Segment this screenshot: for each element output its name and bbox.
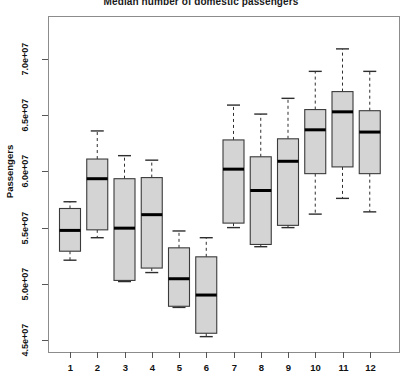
y-axis: [42, 60, 48, 341]
box-plot-item: [250, 114, 271, 247]
box-plot-item: [278, 98, 299, 227]
box-plot-item: [141, 160, 162, 272]
box-plot-item: [359, 71, 380, 212]
plot-area: [0, 0, 402, 391]
box-plot-item: [223, 105, 244, 228]
box-plot-item: [196, 238, 217, 337]
box-series: [60, 49, 381, 337]
boxplot-figure: Median number of domestic passengers Pas…: [0, 0, 402, 391]
box-plot-item: [60, 202, 81, 260]
box-plot-item: [87, 131, 108, 238]
box-plot-item: [332, 49, 353, 198]
box-plot-item: [114, 156, 135, 282]
box-plot-item: [305, 71, 326, 214]
box-plot-item: [169, 231, 190, 307]
